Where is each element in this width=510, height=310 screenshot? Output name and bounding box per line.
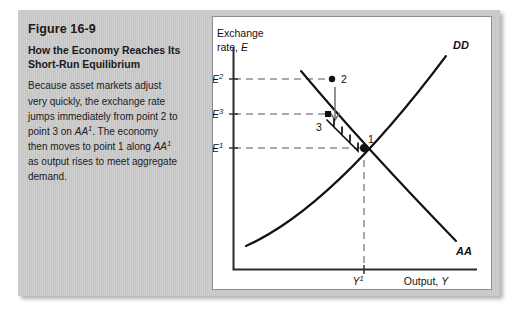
figure-root: Figure 16-9 How the Economy Reaches Its … [0,0,510,310]
x-axis-label-italic: Y [441,275,449,287]
data-point-2 [329,76,335,82]
data-point-2-label: 2 [341,73,347,85]
figure-caption-text: Because asset markets adjust very quickl… [28,78,180,184]
data-point-3 [325,111,331,117]
aa-direction-chevron-2 [335,127,342,135]
aa-direction-chevron-3 [343,135,350,143]
y-axis-label-line2-text: rate, [217,41,241,53]
y-tick-label-E3: E3 [213,107,224,120]
x-axis-label-text: Output, [404,275,441,287]
chart-panel: Exchange rate, E E2 E3 E1 Y1 Output, Y [212,16,492,290]
x-axis-label: Output, Y [404,275,449,287]
curve-AA [301,71,456,241]
figure-caption-block: Figure 16-9 How the Economy Reaches Its … [28,22,200,185]
caption-curve-ref-2: AA [154,141,167,152]
aa-direction-chevron-4 [351,143,358,151]
y-axis-label-line1: Exchange [217,27,264,39]
caption-curve-ref-2-sup: 1 [167,139,171,148]
figure-title: How the Economy Reaches Its Short-Run Eq… [28,43,188,71]
chart-axes [234,49,477,270]
y-tick-label-E1: E1 [213,141,223,154]
curve-label-AA: AA [455,245,472,257]
curve-label-DD: DD [453,39,469,51]
data-point-1 [360,144,368,152]
y-axis-label-line2-italic: E [241,41,249,53]
aa-direction-chevron-1 [327,119,334,127]
y-tick-label-E2: E2 [213,72,224,85]
data-point-3-label: 3 [316,121,322,133]
data-point-1-label: 1 [368,133,374,145]
caption-curve-ref-1: AA [75,126,88,137]
economy-short-run-equilibrium-chart: Exchange rate, E E2 E3 E1 Y1 Output, Y [213,17,491,289]
x-tick-label-Y1: Y1 [352,274,363,287]
caption-part-3: as output rises to meet aggregate demand… [28,156,177,182]
figure-number: Figure 16-9 [28,22,200,36]
